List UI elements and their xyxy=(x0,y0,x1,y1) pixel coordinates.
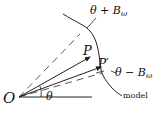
upper-bound-label: θ + Bω xyxy=(90,5,127,18)
lower-bound-dashed-line xyxy=(19,73,102,97)
angle-theta-label: θ xyxy=(46,91,53,102)
vector-p xyxy=(19,57,90,97)
upper-bound-dashed-line xyxy=(19,34,80,97)
p-prime-tick xyxy=(96,71,104,73)
vector-p-prime xyxy=(19,67,101,97)
model-curve xyxy=(63,14,122,96)
lower-bound-label: θ − Bω xyxy=(115,67,152,80)
upper-bound-label-sub: ω xyxy=(121,9,127,18)
diagram-canvas: O P P′ θ + Bω θ − Bω model θ xyxy=(0,0,167,113)
point-p-label: P xyxy=(83,44,92,57)
origin-label: O xyxy=(3,91,15,106)
model-curve-label: model xyxy=(123,92,148,100)
upper-bound-label-main: θ + B xyxy=(90,4,121,17)
upper-label-leader xyxy=(87,18,96,28)
theta-arc xyxy=(40,86,41,97)
lower-bound-label-main: θ − B xyxy=(115,66,146,79)
point-p-prime-label: P′ xyxy=(98,58,109,70)
lower-bound-label-sub: ω xyxy=(146,71,152,80)
